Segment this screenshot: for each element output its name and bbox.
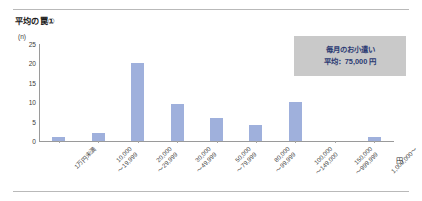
y-axis-line [39, 44, 40, 141]
x-axis-tick [98, 141, 99, 143]
y-axis-tick-label: 20 [29, 60, 36, 67]
x-axis-tick [217, 141, 218, 143]
x-axis-tick [295, 141, 296, 143]
top-divider [13, 9, 409, 10]
x-axis-tick-label: 80,000～99,999 [268, 145, 297, 174]
x-axis-tick-label: 1万円未満 [72, 145, 98, 171]
y-axis-unit-label: (n) [18, 33, 26, 40]
bar [171, 104, 184, 141]
bar [289, 102, 302, 141]
x-axis-tick [138, 141, 139, 143]
bar [92, 133, 105, 141]
x-axis-tick-label: 10,000～19,999 [110, 145, 139, 174]
x-axis-tick [59, 141, 60, 143]
bar [249, 125, 262, 141]
x-axis-tick-label: 1,000,000～ [389, 145, 419, 175]
bottom-divider [13, 191, 409, 192]
y-axis-tick-label: 5 [32, 118, 36, 125]
x-axis-tick [374, 141, 375, 143]
bar [131, 63, 144, 141]
y-axis-tick-label: 15 [29, 79, 36, 86]
bar [210, 118, 223, 141]
page-title: 平均の罠① [15, 14, 55, 26]
x-axis-tick-label: 30,000～49,999 [189, 145, 218, 174]
x-axis-unit-label: 円 [396, 155, 403, 165]
x-axis-tick-label: 20,000～29,999 [150, 145, 179, 174]
x-axis-tick-label: 100,000～149,000 [309, 145, 340, 176]
x-axis-tick [177, 141, 178, 143]
callout-box: 毎月のお小遣い 平均：75,000 円 [294, 36, 406, 76]
x-axis-tick-label: 150,000～999,999 [348, 145, 379, 176]
callout-line-1: 毎月のお小遣い [326, 44, 375, 56]
x-axis-tick-label: 50,000～79,999 [229, 145, 258, 174]
y-axis-tick-label: 0 [32, 138, 36, 145]
x-axis-tick [335, 141, 336, 143]
x-axis-tick [256, 141, 257, 143]
y-axis-tick-label: 10 [29, 99, 36, 106]
chart-figure: 平均の罠① (n) 05101520251万円未満10,000～19,99920… [0, 0, 422, 201]
y-axis-tick-label: 25 [29, 41, 36, 48]
callout-line-2: 平均：75,000 円 [324, 56, 377, 68]
